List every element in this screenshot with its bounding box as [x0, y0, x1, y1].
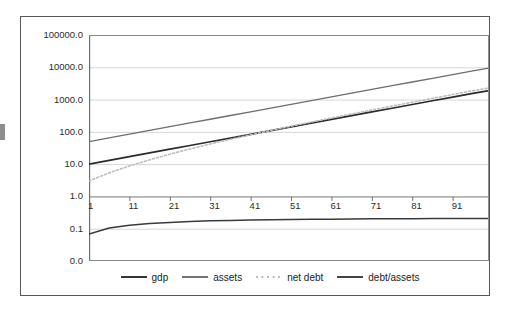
legend-entry-assets[interactable]: assets: [182, 272, 242, 283]
x-tick-label: 81: [411, 200, 422, 212]
legend-label: debt/assets: [368, 272, 419, 283]
y-tick-label: 0.0: [21, 256, 83, 266]
x-axis-tick-labels: 1112131415161718191: [89, 200, 489, 214]
y-tick-label: 0.1: [21, 224, 83, 234]
y-tick-label: 1000.0: [21, 95, 83, 105]
solid-line-icon: [182, 272, 208, 282]
y-axis-tick-labels: 100000.010000.01000.0100.010.01.00.10.0: [21, 35, 83, 261]
legend-label: assets: [213, 272, 242, 283]
y-tick-label: 10000.0: [21, 62, 83, 72]
y-tick-label: 1.0: [21, 191, 83, 201]
series-line-assets: [89, 68, 489, 141]
legend-label: gdp: [152, 272, 169, 283]
legend-label: net debt: [287, 272, 323, 283]
chart-body: 100000.010000.01000.0100.010.01.00.10.0 …: [21, 17, 489, 295]
chart-legend: gdpassetsnet debtdebt/assets: [61, 267, 479, 287]
solid-line-icon: [121, 272, 147, 282]
y-tick-label: 100000.0: [21, 30, 83, 40]
x-tick-label: 71: [371, 200, 382, 212]
x-tick-label: 11: [128, 200, 138, 212]
x-tick-label: 31: [209, 200, 220, 212]
y-tick-label: 10.0: [21, 159, 83, 169]
legend-entry-debt-assets[interactable]: debt/assets: [337, 272, 419, 283]
y-tick-label: 100.0: [21, 127, 83, 137]
x-tick-label: 1: [88, 200, 93, 212]
x-tick-label: 61: [330, 200, 341, 212]
page-edge-artifact: [0, 124, 5, 140]
x-tick-label: 91: [452, 200, 463, 212]
x-tick-label: 21: [169, 200, 180, 212]
plot-series-svg: [89, 35, 489, 261]
solid-line-icon: [337, 272, 363, 282]
legend-entry-net-debt[interactable]: net debt: [256, 272, 323, 283]
dotted-line-icon: [256, 272, 282, 282]
plot-area: [89, 35, 489, 261]
legend-entry-gdp[interactable]: gdp: [121, 272, 169, 283]
chart-figure: 100000.010000.01000.0100.010.01.00.10.0 …: [20, 16, 490, 296]
x-tick-label: 41: [250, 200, 261, 212]
x-tick-label: 51: [290, 200, 301, 212]
series-line-debt-assets: [89, 218, 489, 234]
